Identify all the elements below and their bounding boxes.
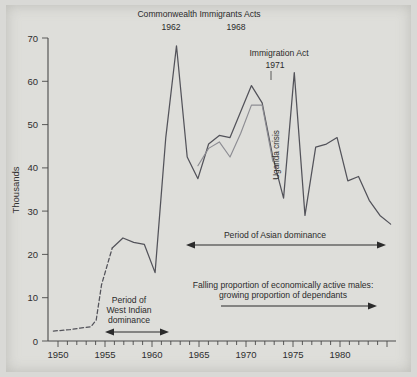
x-tick-label-1970: 1970 [235, 349, 256, 360]
x-tick-label-1980: 1980 [329, 349, 350, 360]
y-axis-ticks [42, 38, 48, 341]
annotation-immigration-act-year-label: 1971 [265, 60, 284, 70]
annotation-commonwealth-immigrants-acts-label: Commonwealth Immigrants Acts [137, 9, 260, 19]
y-tick-label-30: 30 [27, 206, 38, 217]
y-tick-label-50: 50 [27, 119, 38, 130]
annotation-year-1962-label: 1962 [161, 22, 180, 32]
y-tick-label-0: 0 [33, 336, 38, 347]
annotation-west-indian-dominance-line2: West Indian [106, 305, 151, 315]
annotation-west-indian-dominance: Period of West Indian dominance [105, 295, 169, 335]
annotation-asian-dominance-arrow-head-right [377, 242, 386, 249]
y-tick-label-70: 70 [27, 33, 38, 44]
x-tick-label-1965: 1965 [188, 349, 209, 360]
series-total-immigration-dashed-segment [53, 248, 112, 331]
annotation-period-of-asian-dominance-label: Period of Asian dominance [224, 230, 326, 240]
y-tick-label-20: 20 [27, 249, 38, 260]
annotation-year-1968-label: 1968 [226, 22, 245, 32]
annotation-immigration-act: Immigration Act 1971 [249, 48, 309, 80]
x-axis-ticks [58, 341, 387, 347]
annotation-falling-proportion-line1: Falling proportion of economically activ… [193, 280, 374, 290]
x-tick-label-1975: 1975 [282, 349, 303, 360]
y-tick-label-40: 40 [27, 162, 38, 173]
y-tick-label-60: 60 [27, 76, 38, 87]
y-axis-tick-labels: 0 10 20 30 40 50 60 70 [27, 33, 38, 347]
annotation-west-indian-dominance-arrow-head-right [160, 329, 169, 336]
annotation-west-indian-dominance-arrow-head-left [105, 329, 114, 336]
x-tick-label-1950: 1950 [47, 349, 68, 360]
annotation-falling-proportion-line2: growing proportion of dependants [219, 290, 347, 300]
annotation-immigration-act-label: Immigration Act [249, 48, 309, 58]
x-axis-tick-labels: 1950 1955 1960 1965 1970 1975 1980 [47, 349, 350, 360]
x-tick-label-1960: 1960 [141, 349, 162, 360]
y-tick-label-10: 10 [27, 292, 38, 303]
annotation-falling-proportion-arrow-head-right [368, 303, 377, 310]
annotation-commonwealth-acts: Commonwealth Immigrants Acts 1962 1968 [137, 9, 260, 32]
annotation-west-indian-dominance-line3: dominance [108, 315, 150, 325]
annotation-asian-dominance-arrow-head-left [186, 242, 195, 249]
y-axis: 0 10 20 30 40 50 60 70 Thousands [10, 33, 48, 347]
annotation-asian-dominance: Period of Asian dominance [186, 230, 386, 248]
x-tick-label-1955: 1955 [94, 349, 115, 360]
immigration-line-chart: 0 10 20 30 40 50 60 70 Thousands [0, 0, 417, 377]
annotation-west-indian-dominance-line1: Period of [112, 295, 147, 305]
series-dependants [198, 105, 273, 166]
annotation-falling-proportion: Falling proportion of economically activ… [193, 280, 377, 309]
chart-figure: 0 10 20 30 40 50 60 70 Thousands [0, 0, 417, 377]
y-axis-title: Thousands [10, 166, 21, 213]
x-axis: 1950 1955 1960 1965 1970 1975 1980 [47, 341, 396, 360]
annotation-uganda-crisis-label: Uganda crisis [272, 130, 281, 180]
